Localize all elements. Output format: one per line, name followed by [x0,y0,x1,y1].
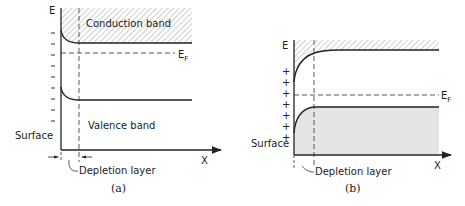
svg-text:+: + [282,88,290,99]
surface-label-b: Surface [251,138,289,149]
valence-band-region-b [294,107,439,154]
diagram-a: E Conduction band EF Valence band Surfac… [15,5,221,195]
svg-text:+: + [282,121,290,132]
caption-b: (b) [345,182,361,195]
x-axis-label-a: X [201,155,208,166]
svg-text:+: + [282,99,290,110]
x-axis-label-b: X [434,160,441,171]
svg-text:+: + [282,66,290,77]
energy-ticks-a [51,33,55,121]
conduction-band-edge-b [294,50,439,82]
diagram-b: + + + + + + + E EF Surface X Depletion l… [251,40,451,195]
conduction-band-region-b [294,40,439,82]
caption-a: (a) [111,182,126,195]
svg-text:+: + [282,110,290,121]
y-axis-label-a: E [49,5,55,16]
valence-band-edge-a [61,87,192,100]
svg-text:+: + [282,77,290,88]
conduction-band-label: Conduction band [86,18,171,29]
positive-charges-b: + + + + + + + [282,66,290,143]
fermi-label-a: EF [178,49,188,63]
y-axis-label-b: E [282,40,288,51]
depletion-leader-a [69,160,78,171]
depletion-label-b: Depletion layer [315,166,392,177]
depletion-label-a: Depletion layer [79,165,156,176]
surface-label-a: Surface [15,130,53,141]
fermi-label-b: EF [441,90,451,104]
depletion-leader-b [302,166,314,172]
valence-band-label: Valence band [88,120,155,131]
